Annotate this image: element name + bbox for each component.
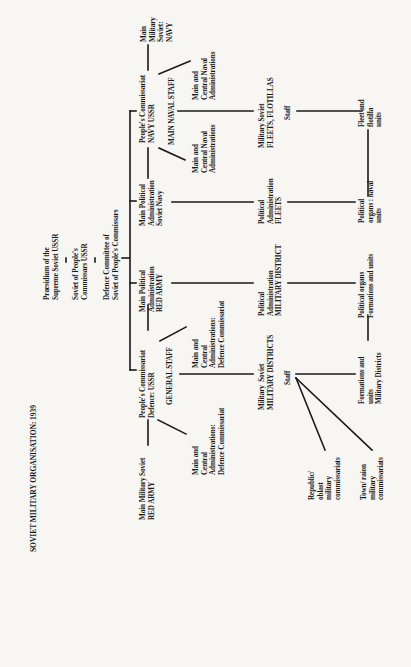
node-mpa-navy: Main Political Administration Soviet Nav… [139, 180, 165, 226]
node-pol-organs-formations: Political organs Formations and units [358, 254, 375, 318]
node-main-military-soviet-army: Main Military Soviet RED ARMY [139, 458, 156, 520]
node-pc-defence: People's Commissariat Defence: USSR [139, 350, 156, 418]
chart-title: SOVIET MILITARY ORGANISATION: 1939 [30, 405, 39, 552]
node-pol-admin-district: Political Administration MILITARY DISTRI… [258, 245, 284, 316]
node-presidium: Praesidium of the Supreme Soviet USSR [43, 234, 60, 300]
node-naval-admins-left: Main and Central Naval Administrations [192, 125, 218, 173]
node-naval-admins-right: Main and Central Naval Administrations [192, 52, 218, 100]
node-main-military-soviet-navy: Main Military Soviet: NAVY [140, 17, 174, 42]
node-staff-fleets: Staff [284, 106, 293, 120]
node-defence-committee: Defence Committee of Soviet of People's … [103, 210, 120, 300]
node-pol-admin-fleets: Political Administration FLEETS [258, 178, 284, 224]
node-ms-fleets: Military Soviet FLEETS, FLOTILLAS [258, 77, 275, 148]
node-general-staff: GENERAL STAFF [166, 347, 175, 405]
node-staff-districts: Staff [284, 371, 293, 385]
node-main-naval-staff: MAIN NAVAL STAFF [168, 78, 177, 146]
node-admins-defence-right: Main and Central Administrations: Defenc… [192, 301, 226, 368]
org-chart: SOVIET MILITARY ORGANISATION: 1939 Praes… [0, 0, 411, 667]
node-sovnarkom: Soviet of People's Commissars USSR [72, 243, 89, 300]
node-ms-districts: Military Soviet MILITARY DISTRICTS [258, 335, 275, 410]
node-mpa-red-army: Main Political Administration RED ARMY [139, 266, 165, 312]
node-town-commissariats: Town/ raion military commissariats [360, 457, 386, 500]
node-fleet-units: Fleet and flotilla units [358, 99, 384, 127]
node-republic-commissariats: Republic/ oblast military commissariats [308, 457, 342, 500]
node-formations-districts: Formations and units Military Districts [358, 353, 384, 405]
node-admins-defence-left: Main and Central Administrations: Defenc… [192, 408, 226, 475]
node-pol-organs-naval: Political organs : naval units [358, 181, 384, 223]
node-pc-navy: People's Commissariat NAVY USSR [139, 75, 156, 143]
